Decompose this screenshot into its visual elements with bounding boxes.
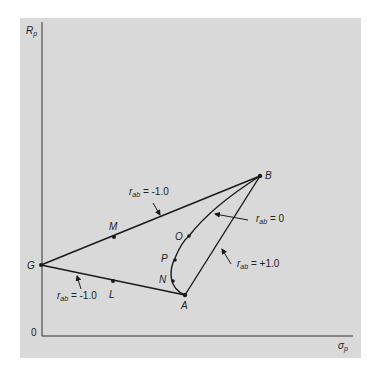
diagram-panel	[20, 18, 361, 358]
point-L	[111, 279, 115, 283]
label-L: L	[109, 289, 115, 300]
point-N	[171, 279, 175, 283]
point-A	[183, 293, 187, 297]
label-P: P	[161, 253, 168, 264]
portfolio-diagram: Rp σp 0 G M L A B N P O rab = -1.0 rab =…	[0, 0, 377, 377]
label-A: A	[180, 300, 188, 311]
point-O	[187, 234, 191, 238]
point-G	[39, 263, 43, 267]
origin-label: 0	[31, 327, 37, 338]
label-G: G	[27, 260, 35, 271]
point-M	[112, 235, 116, 239]
label-N: N	[159, 274, 167, 285]
point-P	[173, 258, 177, 262]
label-B: B	[265, 170, 272, 181]
point-B	[258, 174, 262, 178]
label-O: O	[175, 231, 183, 242]
label-M: M	[109, 221, 118, 232]
